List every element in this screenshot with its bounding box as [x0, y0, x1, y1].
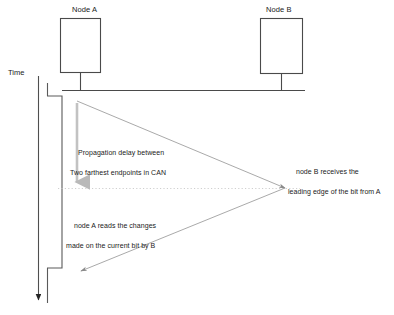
node-b-receives-line-2: leading edge of the bit from A: [288, 187, 381, 197]
node-b-receives-line-1: node B receives the: [296, 168, 359, 175]
node-b-receives-annotation: node B receives the leading edge of the …: [288, 157, 381, 218]
propagation-delay-line-2: Two farthest endpoints in CAN: [70, 168, 166, 178]
node-b-label: Node B: [266, 5, 292, 16]
node-a-reads-line-1: node A reads the changes: [74, 222, 156, 229]
node-a-label: Node A: [72, 5, 97, 16]
node-b-box: [261, 19, 303, 74]
propagation-delay-line-1: Propagation delay between: [78, 149, 164, 156]
node-a-box: [61, 19, 101, 73]
propagation-delay-annotation: Propagation delay between Two farthest e…: [70, 138, 166, 199]
bit-waveform: [48, 83, 63, 303]
node-a-reads-line-2: made on the current bit by B: [66, 241, 156, 251]
node-a-reads-annotation: node A reads the changes made on the cur…: [66, 211, 156, 272]
time-axis-label: Time: [8, 68, 24, 79]
diagram-canvas: Node A Node B Time Propagation delay bet…: [0, 0, 394, 315]
